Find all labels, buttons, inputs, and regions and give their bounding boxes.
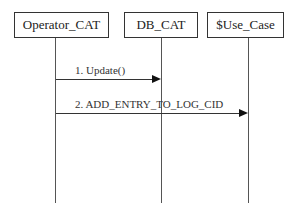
message-label-add-entry: 2. ADD_ENTRY_TO_LOG_CID (75, 98, 223, 110)
participant-use-case: $Use_Case (207, 12, 284, 38)
lifeline-operator-cat (55, 38, 56, 203)
participant-db-cat: DB_CAT (124, 12, 198, 38)
lifeline-use-case (248, 38, 249, 203)
arrowhead-icon (239, 109, 248, 117)
message-label-update: 1. Update() (75, 64, 125, 76)
message-arrow-update (56, 79, 152, 80)
message-arrow-add-entry (56, 113, 239, 114)
arrowhead-icon (152, 75, 161, 83)
lifeline-db-cat (161, 38, 162, 203)
participant-operator-cat: Operator_CAT (14, 12, 109, 38)
participant-label: Operator_CAT (23, 17, 100, 33)
participant-label: DB_CAT (136, 17, 185, 33)
participant-label: $Use_Case (216, 17, 275, 33)
